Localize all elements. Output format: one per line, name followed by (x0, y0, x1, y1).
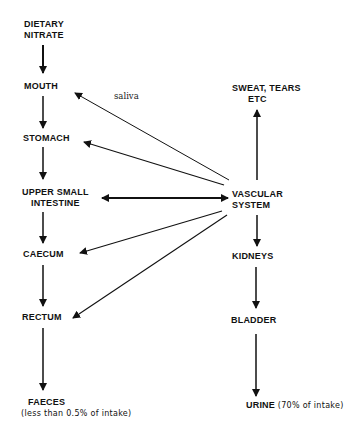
node-faeces: FAECES (less than 0.5% of intake) (21, 397, 132, 419)
node-sweat-tears: SWEAT, TEARS ETC (232, 83, 301, 105)
node-stomach: STOMACH (23, 133, 70, 144)
node-sweat-tears-line1: SWEAT, TEARS (232, 83, 301, 94)
node-kidneys: KIDNEYS (232, 251, 273, 262)
node-sweat-tears-line2: ETC (232, 94, 301, 105)
node-faeces-label: FAECES (21, 397, 132, 408)
node-urine-note: (70% of intake) (278, 401, 344, 410)
node-upper-small-intestine-line1: UPPER SMALL (22, 187, 89, 198)
node-mouth: MOUTH (24, 81, 58, 92)
node-upper-small-intestine: UPPER SMALL INTESTINE (22, 187, 89, 209)
node-rectum: RECTUM (22, 312, 62, 323)
node-dietary-nitrate: DIETARY NITRATE (24, 19, 64, 41)
node-bladder: BLADDER (231, 315, 276, 326)
arrow-vascular-to-rectum (73, 215, 227, 318)
node-vascular-system: VASCULAR SYSTEM (232, 189, 283, 211)
node-urine-label: URINE (246, 400, 275, 410)
arrow-vascular-to-stomach (84, 142, 224, 185)
node-dietary-nitrate-line2: NITRATE (24, 30, 64, 41)
arrow-vascular-to-mouth (75, 93, 229, 180)
node-vascular-system-line2: SYSTEM (232, 200, 283, 211)
node-faeces-note: (less than 0.5% of intake) (21, 408, 132, 419)
node-dietary-nitrate-line1: DIETARY (24, 19, 64, 30)
node-urine: URINE (70% of intake) (246, 400, 344, 411)
node-caecum: CAECUM (23, 249, 64, 260)
flow-arrows (0, 0, 362, 436)
node-vascular-system-line1: VASCULAR (232, 189, 283, 200)
edge-label-saliva: saliva (114, 91, 139, 101)
node-upper-small-intestine-line2: INTESTINE (22, 198, 89, 209)
